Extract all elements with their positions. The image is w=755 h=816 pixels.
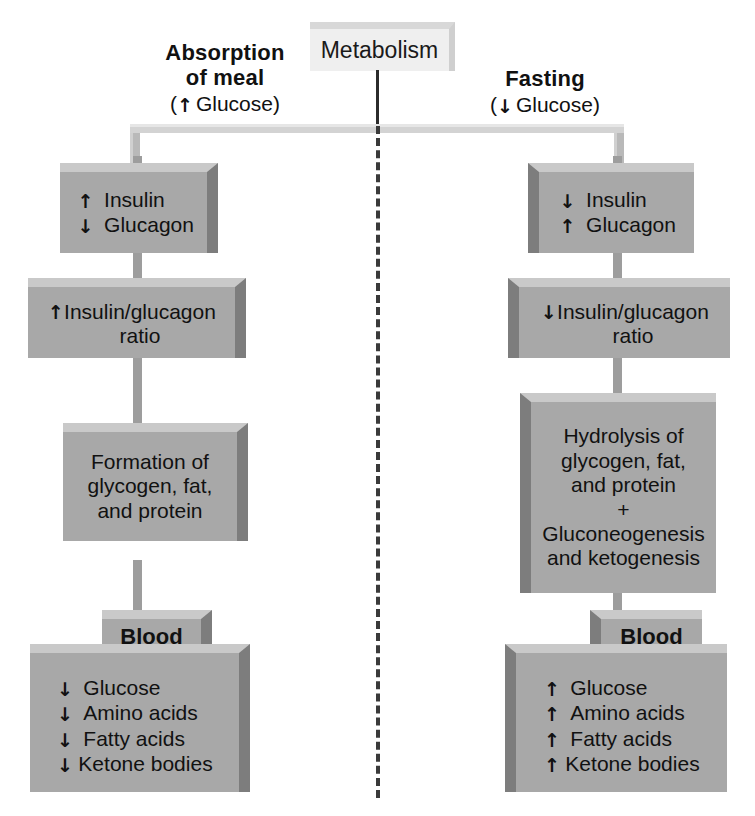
fatty-acids-up-arrow-icon: ↑ — [543, 730, 560, 751]
right-process-line: glycogen, fat, — [542, 449, 704, 473]
left-process-line: and protein — [88, 499, 213, 523]
glucagon-down-arrow-icon: ↓ — [77, 216, 94, 237]
left-blood-row: ↓ Amino acids — [56, 700, 197, 725]
right-blood-row: ↑ Ketone bodies — [543, 751, 699, 776]
right-blood-row: ↑ Amino acids — [543, 700, 684, 725]
right-hormones-rows: ↓ Insulin ↑ Glucagon — [559, 188, 676, 237]
glucose-label: Glucose — [83, 675, 160, 700]
fatty-acids-down-arrow-icon: ↓ — [56, 730, 73, 751]
right-blood-row: ↑ Fatty acids — [543, 726, 672, 751]
fatty-acids-label: Fatty acids — [570, 726, 672, 751]
glucose-sub-text: Glucose) — [190, 92, 280, 115]
amino-acids-label: Amino acids — [83, 700, 197, 725]
left-process-text: Formation of glycogen, fat, and protein — [88, 450, 213, 523]
left-process-box: Formation of glycogen, fat, and protein — [63, 423, 248, 541]
left-ratio-text: Insulin/glucagon ratio — [64, 300, 216, 349]
left-blood-row: ↓ Glucose — [56, 675, 160, 700]
left-hormones-rows: ↑ Insulin ↓ Glucagon — [77, 188, 194, 237]
right-process-line: Gluconeogenesis — [542, 522, 704, 546]
left-blood-body: ↓ Glucose ↓ Amino acids ↓ Fatty acids ↓ — [30, 644, 250, 792]
paren-open: ( — [490, 93, 497, 116]
insulin-down-arrow-icon: ↓ — [559, 191, 576, 212]
left-ratio-box: ↑ Insulin/glucagon ratio — [28, 278, 246, 358]
header-absorption-line1: Absorption — [135, 40, 315, 65]
left-blood-row: ↓ Fatty acids — [56, 726, 185, 751]
glucose-down-arrow-icon: ↓ — [56, 679, 73, 700]
right-ratio-box: ↓ Insulin/glucagon ratio — [508, 278, 730, 358]
right-ratio-line1: Insulin/glucagon — [557, 300, 709, 324]
ratio-down-arrow-icon: ↓ — [540, 302, 557, 323]
left-hormone-row: ↑ Insulin — [77, 188, 165, 212]
right-hormone-row: ↓ Insulin — [559, 188, 647, 212]
header-absorption: Absorption of meal (↑ Glucose) — [135, 40, 315, 116]
right-process-text: Hydrolysis of glycogen, fat, and protein… — [542, 424, 704, 570]
metabolism-label: Metabolism — [321, 37, 439, 64]
right-hormone-row: ↑ Glucagon — [559, 213, 676, 237]
column-divider — [376, 126, 380, 798]
left-connector-3 — [133, 348, 142, 430]
insulin-label: Insulin — [586, 188, 647, 212]
right-blood-row: ↑ Glucose — [543, 675, 647, 700]
right-process-line: and protein — [542, 473, 704, 497]
insulin-up-arrow-icon: ↑ — [77, 191, 94, 212]
left-blood-row: ↓ Ketone bodies — [56, 751, 212, 776]
right-hormones-box: ↓ Insulin ↑ Glucagon — [528, 163, 694, 253]
left-hormones-box: ↑ Insulin ↓ Glucagon — [60, 163, 218, 253]
glucagon-label: Glucagon — [586, 213, 676, 237]
amino-acids-label: Amino acids — [570, 700, 684, 725]
left-hormone-row: ↓ Glucagon — [77, 213, 194, 237]
glucose-sub-text: Glucose) — [510, 93, 600, 116]
right-blood-body: ↑ Glucose ↑ Amino acids ↑ Fatty acids ↑ — [505, 644, 727, 792]
left-process-line: Formation of — [88, 450, 213, 474]
header-fasting: Fasting (↓ Glucose) — [455, 66, 635, 117]
right-process-box: Hydrolysis of glycogen, fat, and protein… — [520, 393, 716, 593]
glucose-up-arrow-icon: ↑ — [543, 679, 560, 700]
header-fasting-sub: (↓ Glucose) — [455, 92, 635, 117]
right-ratio-content: ↓ Insulin/glucagon ratio — [540, 300, 709, 349]
metabolism-box: Metabolism — [310, 22, 455, 71]
left-ratio-content: ↑ Insulin/glucagon ratio — [47, 300, 216, 349]
left-ratio-line1: Insulin/glucagon — [64, 300, 216, 324]
metabolism-stem — [376, 70, 379, 126]
right-blood-rows: ↑ Glucose ↑ Amino acids ↑ Fatty acids ↑ — [543, 675, 699, 776]
glucose-up-arrow-icon: ↑ — [177, 95, 190, 116]
fatty-acids-label: Fatty acids — [83, 726, 185, 751]
ketone-bodies-down-arrow-icon: ↓ — [56, 755, 73, 776]
glucose-down-arrow-icon: ↓ — [497, 96, 510, 117]
left-blood-rows: ↓ Glucose ↓ Amino acids ↓ Fatty acids ↓ — [56, 675, 212, 776]
ratio-up-arrow-icon: ↑ — [47, 302, 64, 323]
left-process-line: glycogen, fat, — [88, 474, 213, 498]
insulin-label: Insulin — [104, 188, 165, 212]
right-ratio-text: Insulin/glucagon ratio — [557, 300, 709, 349]
ketone-bodies-label: Ketone bodies — [565, 751, 699, 776]
diagram-canvas: Metabolism Absorption of meal (↑ Glucose… — [0, 0, 755, 816]
right-blood-box: Blood ↑ Glucose ↑ Amino acids ↑ Fatty ac… — [505, 610, 727, 795]
header-absorption-line2: of meal — [135, 65, 315, 90]
right-process-line: and ketogenesis — [542, 546, 704, 570]
paren-open: ( — [170, 92, 177, 115]
left-ratio-line2: ratio — [64, 324, 216, 348]
glucagon-label: Glucagon — [104, 213, 194, 237]
amino-acids-up-arrow-icon: ↑ — [543, 704, 560, 725]
right-process-line: + — [542, 498, 704, 522]
left-blood-box: Blood ↓ Glucose ↓ Amino acids ↓ Fatty ac… — [30, 610, 250, 795]
header-fasting-line1: Fasting — [455, 66, 635, 91]
amino-acids-down-arrow-icon: ↓ — [56, 704, 73, 725]
glucose-label: Glucose — [570, 675, 647, 700]
ketone-bodies-label: Ketone bodies — [78, 751, 212, 776]
right-process-line: Hydrolysis of — [542, 424, 704, 448]
right-ratio-line2: ratio — [557, 324, 709, 348]
glucagon-up-arrow-icon: ↑ — [559, 216, 576, 237]
ketone-bodies-up-arrow-icon: ↑ — [543, 755, 560, 776]
header-absorption-sub: (↑ Glucose) — [135, 91, 315, 116]
